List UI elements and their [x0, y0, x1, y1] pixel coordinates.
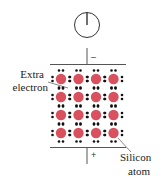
valence-electron — [51, 116, 54, 119]
valence-electron — [121, 112, 124, 115]
valence-electron — [51, 134, 54, 137]
valence-electron — [51, 76, 54, 79]
silicon-atom — [91, 74, 101, 84]
valence-electron — [79, 105, 82, 108]
valence-electron — [93, 123, 96, 126]
valence-electron — [121, 98, 124, 101]
valence-electron — [97, 69, 100, 72]
silicon-atom-leader — [118, 138, 131, 152]
valence-electron — [86, 130, 89, 133]
valence-electron — [58, 69, 61, 72]
silicon-atom — [56, 74, 66, 84]
valence-electron — [51, 98, 54, 101]
valence-electron — [58, 87, 61, 90]
silicon-atom — [108, 110, 118, 120]
valence-electron — [75, 69, 78, 72]
valence-electron — [62, 69, 65, 72]
valence-electron — [86, 98, 89, 101]
valence-electron — [97, 105, 100, 108]
valence-electron — [114, 123, 117, 126]
valence-electron — [79, 123, 82, 126]
valence-electron — [121, 76, 124, 79]
valence-electron — [69, 98, 72, 101]
silicon-atom — [73, 128, 83, 138]
valence-electron — [121, 94, 124, 97]
valence-electron — [121, 130, 124, 133]
valence-electron — [93, 105, 96, 108]
valence-electron — [121, 80, 124, 83]
valence-electron — [104, 94, 107, 97]
silicon-atom — [108, 92, 118, 102]
silicon-atom — [73, 92, 83, 102]
valence-electron — [75, 140, 78, 143]
valence-electron — [104, 112, 107, 115]
valence-electron — [58, 105, 61, 108]
valence-electron — [79, 140, 82, 143]
positive-terminal-sign: + — [91, 151, 96, 160]
valence-electron — [86, 134, 89, 137]
valence-electron — [121, 134, 124, 137]
valence-electron — [104, 76, 107, 79]
valence-electron — [79, 87, 82, 90]
valence-electron — [93, 69, 96, 72]
valence-electron — [69, 76, 72, 79]
valence-electron — [62, 87, 65, 90]
valence-electron — [75, 123, 78, 126]
silicon-atom — [91, 128, 101, 138]
valence-electron — [104, 80, 107, 83]
silicon-atom-label-line1: Silicon — [120, 151, 151, 163]
valence-electron — [86, 76, 89, 79]
valence-electron — [69, 134, 72, 137]
valence-electron — [93, 87, 96, 90]
silicon-atom — [56, 92, 66, 102]
valence-electron — [110, 69, 113, 72]
valence-electron — [110, 105, 113, 108]
silicon-atom — [108, 74, 118, 84]
valence-electron — [62, 123, 65, 126]
valence-electron — [58, 140, 61, 143]
silicon-atom — [91, 92, 101, 102]
valence-electron — [51, 80, 54, 83]
extra-electron-label-line2: electron — [13, 81, 48, 93]
valence-electron — [79, 69, 82, 72]
valence-electron — [110, 87, 113, 90]
silicon-atom-label-line2: atom — [128, 165, 150, 177]
silicon-atom — [56, 128, 66, 138]
silicon-atom — [56, 110, 66, 120]
valence-electron — [62, 140, 65, 143]
meter-icon — [75, 13, 100, 38]
negative-terminal-sign: – — [91, 53, 96, 62]
valence-electron — [51, 112, 54, 115]
valence-electron — [97, 140, 100, 143]
valence-electron — [75, 105, 78, 108]
valence-electron — [114, 140, 117, 143]
valence-electron — [51, 94, 54, 97]
silicon-atom — [73, 74, 83, 84]
valence-electron — [69, 116, 72, 119]
valence-electron — [97, 87, 100, 90]
valence-electron — [86, 112, 89, 115]
silicon-atom — [73, 110, 83, 120]
silicon-atom — [108, 128, 118, 138]
valence-electron — [86, 116, 89, 119]
valence-electron — [86, 80, 89, 83]
valence-electron — [104, 130, 107, 133]
valence-electron — [51, 130, 54, 133]
valence-electron — [121, 116, 124, 119]
valence-electron — [58, 123, 61, 126]
valence-electron — [62, 105, 65, 108]
valence-electron — [93, 140, 96, 143]
valence-electron — [69, 130, 72, 133]
valence-electron — [97, 123, 100, 126]
valence-electron — [110, 123, 113, 126]
valence-electron — [69, 112, 72, 115]
valence-electron — [110, 140, 113, 143]
silicon-lattice — [51, 69, 123, 143]
valence-electron — [104, 134, 107, 137]
valence-electron — [75, 87, 78, 90]
valence-electron — [114, 105, 117, 108]
silicon-atom — [91, 110, 101, 120]
valence-electron — [69, 94, 72, 97]
valence-electron — [114, 87, 117, 90]
valence-electron — [86, 94, 89, 97]
